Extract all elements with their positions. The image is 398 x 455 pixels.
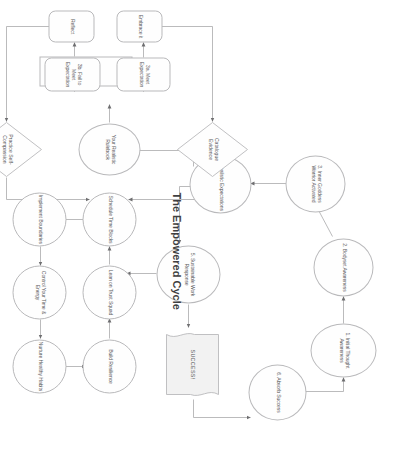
node-label: 3. Inner Goddess Warrior Activated (309, 157, 320, 210)
node-label: 2. Bodyset Awareness (340, 243, 346, 291)
node-catalogue-evidence[interactable]: Catalogue Evidence (176, 121, 248, 177)
edge-doc-n6 (193, 399, 250, 417)
node-label: 1. Initial Thought Awareness (337, 325, 348, 375)
node-label: Embrace it (136, 14, 142, 37)
node-label: 5. Sustainable Work Response (182, 247, 193, 301)
node-control-your-time-and-energy[interactable]: Control Your Time & Energy (12, 265, 66, 319)
node-label: Schedule Time Blocks (106, 195, 112, 243)
node-label: Nurture Healthy Habits (36, 341, 42, 390)
node-success-document[interactable]: SUCCESS! (164, 328, 220, 400)
node-absorb-success[interactable]: 6. Absorb Success (248, 364, 306, 420)
node-label: Your Realistic Rulebook (103, 125, 114, 173)
flowchart-diagram: 1. Initial Thought Awareness 2. Bodyset … (0, 0, 398, 455)
node-label: 6. Absorb Success (274, 372, 280, 413)
node-schedule-time-blocks[interactable]: Schedule Time Blocks (82, 192, 136, 246)
node-implement-boundaries[interactable]: Implement Boundaries (12, 192, 66, 246)
document-label: SUCCESS! (164, 328, 220, 400)
node-label: Build Resilience (106, 349, 112, 384)
node-lean-on-trust-squad[interactable]: Lean on Trust Squad (82, 265, 136, 319)
node-label: Lean on Trust Squad (106, 269, 112, 314)
edge-n6-n1 (305, 377, 343, 391)
node-fail-to-meet-expectation[interactable]: 3b. Fail to Meet Expectation (44, 57, 100, 91)
screenshot-canvas: 1. Initial Thought Awareness 2. Bodyset … (0, 0, 398, 455)
node-reflect[interactable]: Reflect (48, 10, 94, 42)
node-meet-expectation[interactable]: 3a. Meet Expectation (116, 57, 170, 91)
node-sustainable-work-response[interactable]: 5. Sustainable Work Response (156, 245, 220, 303)
node-label: Implement Boundaries (36, 195, 42, 244)
node-nurture-healthy-habits[interactable]: Nurture Healthy Habits (12, 339, 66, 393)
node-practice-self-compassion[interactable]: Practice Self-Compassion (0, 121, 42, 177)
node-label: 3a. Meet Expectation (137, 59, 148, 89)
diamond-label: Catalogue Evidence (176, 121, 248, 177)
node-your-realistic-rulebook[interactable]: Your Realistic Rulebook (78, 123, 140, 175)
node-embrace-it[interactable]: Embrace it (116, 10, 162, 42)
node-build-resilience[interactable]: Build Resilience (82, 339, 136, 393)
node-bodyset-awareness[interactable]: 2. Bodyset Awareness (313, 238, 373, 296)
diamond-label: Practice Self-Compassion (0, 121, 42, 177)
node-label: Reflect (68, 18, 74, 33)
node-initial-thought-awareness[interactable]: 1. Initial Thought Awareness (310, 323, 376, 377)
node-label: Control Your Time & Energy (33, 267, 44, 317)
node-inner-goddess-warrior-activated[interactable]: 3. Inner Goddess Warrior Activated (285, 155, 345, 212)
diagram-title: The Empowered Cycle (170, 192, 182, 309)
node-label: 3b. Fail to Meet Expectation (63, 59, 80, 89)
